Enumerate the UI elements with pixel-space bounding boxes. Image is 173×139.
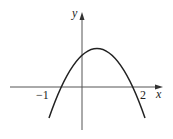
parabola-curve <box>49 49 145 119</box>
parabola-chart: y x −1 2 <box>0 0 173 139</box>
tick-label-2: 2 <box>140 88 146 102</box>
x-axis-label: x <box>155 87 162 101</box>
tick-label-neg1: −1 <box>36 88 49 102</box>
y-axis-arrow-icon <box>80 12 85 20</box>
y-axis-label: y <box>71 6 78 20</box>
